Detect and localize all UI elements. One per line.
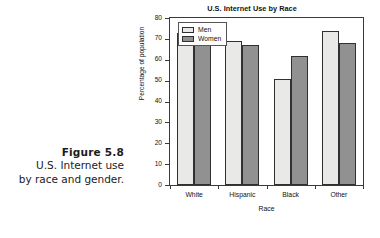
y-axis-label: Percentage of population [138,0,145,129]
bar-group [225,18,259,185]
figure-caption: Figure 5.8 U.S. Internet use by race and… [0,146,126,186]
legend-label-women: Women [198,35,221,42]
bar-group [322,18,356,185]
y-axis-tick-mark [165,18,169,19]
chart-title: U.S. Internet Use by Race [126,4,378,13]
legend-item-women: Women [182,34,221,43]
bar-other-men [322,31,339,185]
bar-group [274,18,308,185]
bar-hispanic-men [225,41,242,185]
chart-legend: Men Women [178,22,227,46]
bar-white-women [194,43,211,185]
bar-white-men [177,33,194,185]
y-axis-tick-label: 80 [155,14,162,21]
x-axis-tick-mark [315,185,316,189]
y-axis-tick-label: 10 [155,160,162,167]
figure-caption-line-1: U.S. Internet use [0,159,126,172]
x-axis-tick-mark [170,185,171,189]
bar-other-women [339,43,356,185]
x-axis-tick-mark [267,185,268,189]
y-axis-tick-mark [165,81,169,82]
y-axis-tick-mark [165,102,169,103]
figure-number: Figure 5.8 [0,146,126,159]
y-axis-tick-label: 0 [158,181,162,188]
y-axis-tick-mark [165,39,169,40]
legend-swatch-women-icon [182,36,194,42]
bar-hispanic-women [242,45,259,185]
figure-caption-line-2: by race and gender. [0,173,126,186]
y-axis-tick-label: 50 [155,76,162,83]
y-axis-tick-label: 70 [155,34,162,41]
bar-black-women [291,56,308,185]
y-axis-tick-label: 30 [155,118,162,125]
y-axis-tick-mark [165,164,169,165]
x-axis-category-label: White [170,191,218,198]
bar-black-men [274,79,291,185]
x-axis-category-label: Black [267,191,315,198]
x-axis-tick-mark [363,185,364,189]
legend-label-men: Men [198,26,211,33]
x-axis-category-label: Other [315,191,363,198]
x-axis-category-label: Hispanic [218,191,266,198]
x-axis-tick-mark [218,185,219,189]
y-axis-tick-mark [165,143,169,144]
legend-item-men: Men [182,25,221,34]
y-axis-tick-label: 20 [155,139,162,146]
y-axis-tick-label: 60 [155,55,162,62]
bar-chart: U.S. Internet Use by Race Percentage of … [126,2,378,234]
y-axis-tick-mark [165,185,169,186]
y-axis-tick-label: 40 [155,97,162,104]
legend-swatch-men-icon [182,27,194,33]
x-axis-label: Race [169,205,364,212]
y-axis-tick-mark [165,60,169,61]
y-axis-tick-mark [165,122,169,123]
